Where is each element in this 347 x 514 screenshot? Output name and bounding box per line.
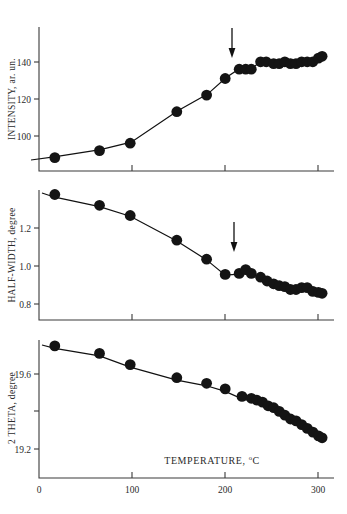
series-line-halfwidth [42,193,323,294]
panel-halfwidth: 1.2 1.0 0.8 HALF-WIDTH, degree [7,189,334,320]
data-points-halfwidth [49,189,327,299]
ytick-label-top-1: 120 [17,95,32,105]
transition-arrow-top [229,28,236,58]
xtick-label-1: 100 [125,485,140,495]
ytick-label-mid-1: 1.0 [19,262,31,272]
panel-halfwidth-yticks [34,228,39,304]
panel-intensity-axes [39,27,334,171]
panel-twotheta-series [42,341,328,444]
panel-twotheta-yticks [34,374,39,449]
panel-twotheta-xticks [132,472,318,478]
ytick-label-mid-0: 0.8 [19,300,31,310]
figure-container: 140 120 100 INTENSITY, ar. un. [0,0,347,514]
xlabel-tail: C [253,455,260,466]
panel-intensity-xticks [132,165,318,171]
ylabel-halfwidth: HALF-WIDTH, degree [7,207,17,302]
data-points-intensity [49,51,327,163]
xlabel-main: TEMPERATURE, [164,455,248,466]
xtick-labels: 0 100 200 300 [37,485,326,495]
ytick-label-top-0: 100 [17,132,32,142]
xtick-label-0: 0 [37,485,42,495]
series-line-twotheta [42,345,323,440]
xlabel-temperature: TEMPERATURE, oC [164,454,260,466]
panel-intensity: 140 120 100 INTENSITY, ar. un. [7,27,334,171]
ylabel-intensity: INTENSITY, ar. un. [7,58,17,140]
panel-twotheta: 19.6 19.2 2 THETA, degree [7,340,334,495]
xtick-label-3: 300 [311,485,326,495]
xtick-label-2: 200 [218,485,233,495]
ytick-label-mid-2: 1.2 [19,224,31,234]
ytick-label-bot-0: 19.2 [14,445,31,455]
ylabel-twotheta: 2 THETA, degree [7,372,17,444]
transition-arrow-middle [231,222,238,252]
panel-halfwidth-xticks [132,314,318,320]
multi-panel-chart: 140 120 100 INTENSITY, ar. un. [0,0,347,514]
panel-intensity-yticks [34,62,39,136]
panel-intensity-series [31,51,328,163]
data-points-twotheta [49,341,327,444]
ytick-label-top-2: 140 [17,58,32,68]
panel-halfwidth-series [42,189,328,299]
panel-halfwidth-axes [39,190,334,320]
